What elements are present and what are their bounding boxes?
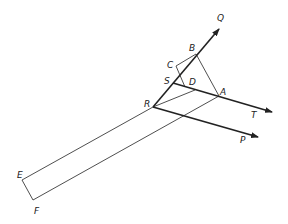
label-f: F: [34, 206, 40, 216]
ray-rp: [153, 107, 258, 137]
label-p: P: [240, 135, 246, 145]
ray-rq: [153, 29, 219, 107]
segment-fa: [33, 96, 219, 200]
segment-ef: [22, 180, 33, 200]
label-t: T: [251, 110, 258, 120]
label-s: S: [164, 76, 170, 86]
segment-ba: [196, 54, 219, 96]
label-b: B: [189, 43, 195, 53]
label-e: E: [17, 170, 23, 180]
label-a: A: [219, 87, 226, 97]
label-r: R: [144, 99, 150, 109]
label-d: D: [189, 77, 196, 87]
label-c: C: [167, 60, 174, 70]
label-q: Q: [217, 13, 224, 23]
geometry-diagram: Q B C S D A R T P E F: [0, 0, 288, 224]
